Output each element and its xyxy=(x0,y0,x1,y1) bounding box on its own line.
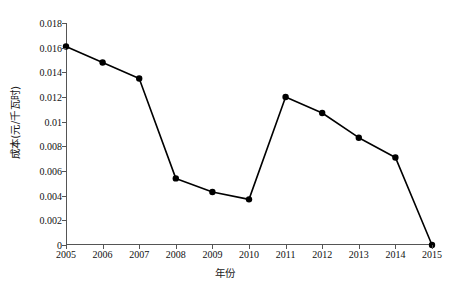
data-point-marker xyxy=(246,196,252,202)
data-point-marker xyxy=(173,175,179,181)
y-axis-tick-mark xyxy=(62,72,66,73)
x-axis-tick-label: 2008 xyxy=(166,249,186,260)
data-point-marker xyxy=(136,75,142,81)
y-axis-tick-label: 0.012 xyxy=(40,92,63,103)
x-axis-tick-label: 2006 xyxy=(93,249,113,260)
x-axis-tick-label: 2005 xyxy=(56,249,76,260)
series-line xyxy=(66,46,432,245)
data-point-marker xyxy=(282,94,288,100)
y-axis-tick-mark xyxy=(62,220,66,221)
data-point-marker xyxy=(319,110,325,116)
data-point-marker xyxy=(63,43,69,49)
y-axis-tick-mark xyxy=(62,122,66,123)
y-axis-tick-label: 0.016 xyxy=(40,42,63,53)
y-axis-tick-label: 0.018 xyxy=(40,18,63,29)
y-axis-tick-mark xyxy=(62,171,66,172)
x-axis-tick-label: 2015 xyxy=(422,249,442,260)
x-axis-title: 年份 xyxy=(0,265,450,280)
data-point-marker xyxy=(356,135,362,141)
y-axis-tick-label: 0.002 xyxy=(40,215,63,226)
x-axis-tick-label: 2009 xyxy=(202,249,222,260)
y-axis-tick-mark xyxy=(62,146,66,147)
x-axis-tick-label: 2012 xyxy=(312,249,332,260)
y-axis-tick-mark xyxy=(62,23,66,24)
y-axis-tick-label: 0.014 xyxy=(40,67,63,78)
y-axis-tick-mark xyxy=(62,97,66,98)
y-axis-tick-mark xyxy=(62,196,66,197)
plot-area xyxy=(66,23,432,245)
data-point-marker xyxy=(209,189,215,195)
x-axis-tick-label: 2014 xyxy=(385,249,405,260)
data-point-marker xyxy=(99,59,105,65)
x-axis-tick-label: 2010 xyxy=(239,249,259,260)
series-plot xyxy=(66,23,432,245)
y-axis-title-text: 成本(元/千瓦时) xyxy=(8,86,23,160)
y-axis-tick-label: 0.004 xyxy=(40,190,63,201)
y-axis-tick-mark xyxy=(62,48,66,49)
x-axis-tick-labels: 2005200620072008200920102011201220132014… xyxy=(66,249,432,265)
x-axis-tick-label: 2007 xyxy=(129,249,149,260)
x-axis-tick-label: 2013 xyxy=(349,249,369,260)
y-axis-tick-label: 0.008 xyxy=(40,141,63,152)
data-point-marker xyxy=(392,154,398,160)
line-chart: 成本(元/千瓦时) 0.0180.0160.0140.0120.010.0080… xyxy=(0,0,450,292)
y-axis-tick-label: 0.01 xyxy=(45,116,63,127)
x-axis-tick-label: 2011 xyxy=(276,249,296,260)
y-axis-tick-label: 0.006 xyxy=(40,166,63,177)
